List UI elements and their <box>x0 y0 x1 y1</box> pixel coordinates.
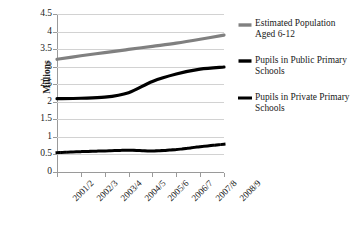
y-axis-tick-label: 1 <box>24 132 52 142</box>
x-axis-line <box>57 172 224 173</box>
legend-entry[interactable]: Estimated Population Aged 6-12 <box>238 18 350 41</box>
x-axis-tick-mark <box>224 173 225 177</box>
y-axis-tick-mark <box>53 102 57 103</box>
legend-entry-label: Estimated Population Aged 6-12 <box>255 18 350 41</box>
y-axis-tick-label: 4.5 <box>24 9 52 19</box>
y-axis-tick-mark <box>53 137 57 138</box>
x-axis-tick-label: 2006/7 <box>190 178 215 203</box>
x-axis-tick-mark <box>152 173 153 177</box>
x-axis-tick-label: 2001/2 <box>70 178 95 203</box>
chart-legend: Estimated Population Aged 6-12Pupils in … <box>238 18 350 128</box>
series-lines <box>57 14 224 172</box>
series-line-1 <box>57 35 224 59</box>
y-axis-tick-mark <box>53 84 57 85</box>
y-axis-tick-label: 3.5 <box>24 44 52 54</box>
x-axis-tick-label: 2002/3 <box>94 178 119 203</box>
y-axis-tick-labels: 00.511.522.533.544.5 <box>24 14 52 172</box>
y-axis-tick-label: 2 <box>24 97 52 107</box>
y-axis-tick-mark <box>53 32 57 33</box>
y-axis-tick-label: 3 <box>24 62 52 72</box>
x-axis-tick-label: 2005/6 <box>166 178 191 203</box>
legend-entry-label: Pupils in Private Primary Schools <box>255 92 350 115</box>
legend-entry-label: Pupils in Public Primary Schools <box>255 55 350 78</box>
legend-entry[interactable]: Pupils in Private Primary Schools <box>238 92 350 115</box>
y-axis-tick-mark <box>53 154 57 155</box>
x-axis-tick-label: 2004/5 <box>142 178 167 203</box>
x-axis-tick-mark <box>105 173 106 177</box>
series-line-3 <box>57 144 224 152</box>
legend-entry[interactable]: Pupils in Public Primary Schools <box>238 55 350 78</box>
y-axis-tick-mark <box>53 14 57 15</box>
y-axis-tick-label: 0.5 <box>24 150 52 160</box>
x-axis-tick-mark <box>81 173 82 177</box>
x-axis-tick-mark <box>200 173 201 177</box>
y-axis-tick-mark <box>53 119 57 120</box>
black-solid-line-icon <box>238 59 252 63</box>
x-axis-tick-mark <box>57 173 58 177</box>
y-axis-tick-label: 2.5 <box>24 79 52 89</box>
line-chart-figure: Millions 00.511.522.533.544.5 2001/22002… <box>0 0 355 238</box>
y-axis-tick-mark <box>53 67 57 68</box>
y-axis-tick-label: 1.5 <box>24 115 52 125</box>
series-line-2 <box>57 67 224 99</box>
x-axis-tick-mark <box>129 173 130 177</box>
x-axis-tick-label: 2007/8 <box>214 178 239 203</box>
y-axis-tick-label: 0 <box>24 167 52 177</box>
x-axis-tick-label: 2008/9 <box>237 178 262 203</box>
plot-area <box>57 14 224 172</box>
black-dotted-line-icon <box>238 96 252 100</box>
y-axis-tick-label: 4 <box>24 27 52 37</box>
gray-solid-line-icon <box>238 23 252 27</box>
y-axis-tick-mark <box>53 49 57 50</box>
x-axis-tick-label: 2003/4 <box>118 178 143 203</box>
x-axis-tick-mark <box>176 173 177 177</box>
